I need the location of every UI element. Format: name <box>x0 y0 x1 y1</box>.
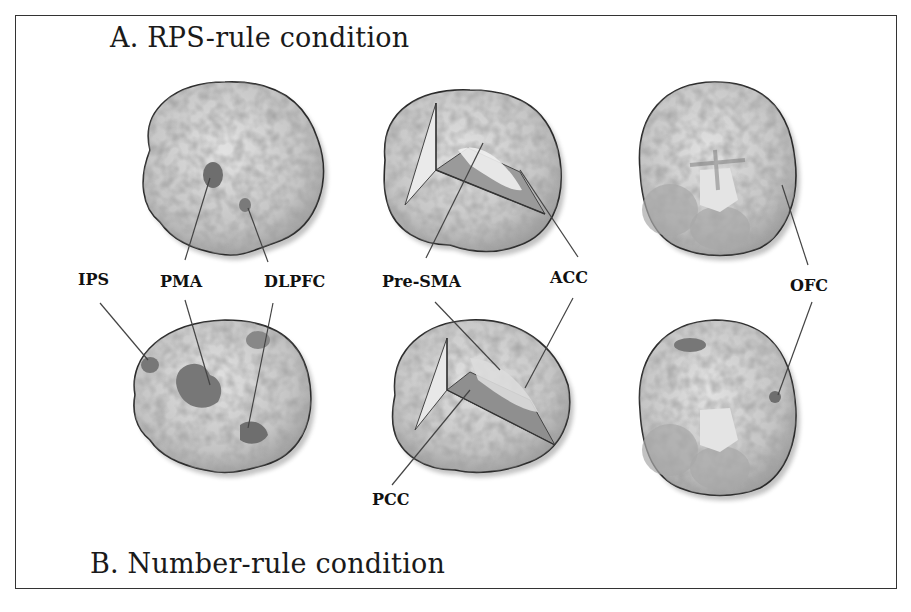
label-acc: ACC <box>550 268 588 287</box>
label-pre-sma: Pre-SMA <box>382 272 461 291</box>
brain-a-medial <box>384 90 565 257</box>
activation-pma <box>203 162 223 188</box>
label-pma: PMA <box>160 272 202 291</box>
panel-a-title: A. RPS-rule condition <box>110 22 409 53</box>
label-pcc: PCC <box>372 490 410 509</box>
label-ofc: OFC <box>790 276 828 295</box>
label-ips: IPS <box>78 270 109 289</box>
brain-a-lateral <box>143 82 327 260</box>
leader-ofc-b <box>778 302 812 395</box>
brain-b-medial <box>392 320 573 477</box>
brain-figure <box>0 0 911 612</box>
label-dlpfc: DLPFC <box>264 272 325 291</box>
activation-ips <box>141 357 159 373</box>
brain-b-lateral <box>134 320 315 477</box>
panel-b-title: B. Number-rule condition <box>90 548 445 579</box>
brain-b-ventral <box>639 320 799 501</box>
leader-ips <box>100 303 148 360</box>
brain-a-ventral <box>639 82 799 261</box>
